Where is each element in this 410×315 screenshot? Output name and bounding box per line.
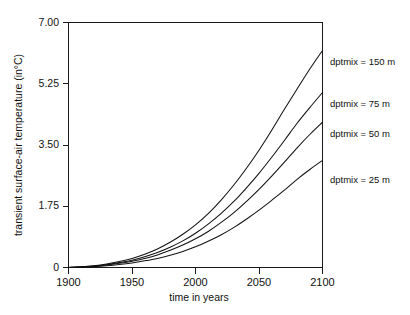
series-label-0: dptmix = 150 m (330, 56, 395, 67)
x-tick-label-2000: 2000 (183, 276, 207, 288)
y-axis-title: transient surface-air temperature (in°C) (12, 54, 24, 236)
y-tick-label-525: 5.25 (39, 77, 60, 89)
series-label-2: dptmix = 50 m (330, 128, 390, 139)
x-tick-label-2050: 2050 (247, 276, 271, 288)
chart-figure: 7.00 5.25 3.50 1.75 0 1900 1950 2000 205… (0, 0, 410, 315)
line-chart: 7.00 5.25 3.50 1.75 0 1900 1950 2000 205… (0, 0, 410, 315)
x-tick-label-2100: 2100 (310, 276, 334, 288)
x-axis-title: time in years (169, 291, 229, 303)
y-tick-label-7: 7.00 (39, 16, 60, 28)
y-tick-label-0: 0 (53, 261, 59, 273)
series-label-3: dptmix = 25 m (330, 174, 390, 185)
x-tick-label-1900: 1900 (56, 276, 80, 288)
x-tick-label-1950: 1950 (120, 276, 144, 288)
series-label-1: dptmix = 75 m (330, 98, 390, 109)
y-tick-label-350: 3.50 (39, 138, 60, 150)
y-tick-label-175: 1.75 (39, 199, 60, 211)
